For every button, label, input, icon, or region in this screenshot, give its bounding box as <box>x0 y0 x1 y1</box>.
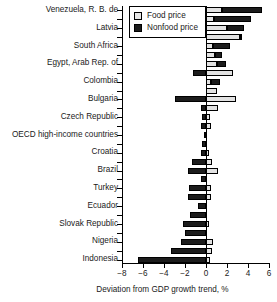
x-tick-label: 6 <box>259 269 277 278</box>
legend-swatch-food-icon <box>134 12 142 20</box>
bar-segment-food <box>206 52 215 58</box>
bar-segment-nonfood <box>175 96 207 102</box>
y-axis-label: Croatia <box>92 148 118 156</box>
legend-swatch-nonfood-icon <box>134 24 142 32</box>
y-tick <box>117 144 122 145</box>
bar-segment-food <box>206 239 213 245</box>
legend-entry-food: Food price <box>134 10 201 22</box>
bar-segment-food <box>206 248 212 254</box>
bar-segment-nonfood <box>214 16 251 22</box>
bar-segment-food <box>206 168 218 174</box>
y-tick <box>117 179 122 180</box>
y-axis-label: South Africa <box>74 42 118 50</box>
bar-row <box>122 255 269 264</box>
bar-segment-nonfood <box>213 43 230 49</box>
bar-segment-nonfood <box>189 185 206 191</box>
x-tick <box>164 264 165 268</box>
bar-row <box>122 95 269 104</box>
x-tick-label: 2 <box>217 269 237 278</box>
x-tick <box>185 264 186 268</box>
y-tick <box>117 55 122 56</box>
bar-segment-nonfood <box>192 159 206 165</box>
bar-segment-nonfood <box>211 79 219 85</box>
bar-row <box>122 131 269 140</box>
y-tick <box>117 108 122 109</box>
y-tick <box>117 126 122 127</box>
bar-segment-nonfood <box>201 176 206 182</box>
bar-segment-food <box>206 7 222 13</box>
bar-segment-food <box>206 34 240 40</box>
bar-row <box>122 220 269 229</box>
bar-segment-nonfood <box>222 7 262 13</box>
bar-segment-food <box>206 114 210 120</box>
bar-segment-nonfood <box>204 132 206 138</box>
bar-row <box>122 122 269 131</box>
x-tick <box>206 264 207 268</box>
y-axis-label: Brazil <box>98 166 118 174</box>
legend-label-nonfood: Nonfood price <box>147 24 198 32</box>
bar-segment-nonfood <box>202 114 206 120</box>
bar-segment-food <box>206 25 227 31</box>
bar-row <box>122 228 269 237</box>
bar-segment-food <box>206 257 210 263</box>
bar-row <box>122 237 269 246</box>
bar-segment-nonfood <box>215 52 221 58</box>
bar-row <box>122 86 269 95</box>
bar-segment-food <box>206 221 209 227</box>
bar-row <box>122 42 269 51</box>
bar-segment-nonfood <box>193 70 206 76</box>
bar-row <box>122 157 269 166</box>
y-axis-label: Ecuador <box>88 202 119 210</box>
bar-row <box>122 113 269 122</box>
bar-row <box>122 139 269 148</box>
bar-segment-nonfood <box>202 141 206 147</box>
y-axis-label: Colombia <box>83 77 118 85</box>
x-axis-title: Deviation from GDP growth trend, % <box>0 285 277 294</box>
x-tick-label: −2 <box>175 269 195 278</box>
legend-label-food: Food price <box>147 12 186 20</box>
bar-segment-nonfood <box>171 248 206 254</box>
x-tick <box>248 264 249 268</box>
y-tick <box>117 73 122 74</box>
x-tick-label: −6 <box>133 269 153 278</box>
y-tick <box>117 91 122 92</box>
x-tick <box>269 264 270 268</box>
bar-segment-food <box>206 150 209 156</box>
bar-segment-nonfood <box>183 221 206 227</box>
x-tick <box>143 264 144 268</box>
bar-segment-nonfood <box>227 25 244 31</box>
x-tick-label: −8 <box>112 269 132 278</box>
bar-row <box>122 148 269 157</box>
y-tick <box>117 37 122 38</box>
plot-area <box>122 6 269 264</box>
bar-row <box>122 246 269 255</box>
bar-row <box>122 202 269 211</box>
x-tick <box>122 264 123 268</box>
y-tick <box>117 162 122 163</box>
bar-segment-food <box>206 105 218 111</box>
bar-segment-food <box>206 16 214 22</box>
bar-row <box>122 77 269 86</box>
bar-segment-nonfood <box>188 194 206 200</box>
bar-row <box>122 104 269 113</box>
y-axis-label: Latvia <box>96 24 118 32</box>
bar-segment-food <box>206 96 236 102</box>
y-axis-label: Egypt, Arab Rep. of <box>47 59 118 67</box>
bar-segment-food <box>206 159 212 165</box>
chart-legend: Food price Nonfood price <box>129 6 206 38</box>
y-axis-label: Indonesia <box>82 255 118 263</box>
bar-row <box>122 68 269 77</box>
bar-segment-nonfood <box>198 203 206 209</box>
bar-row <box>122 50 269 59</box>
bar-segment-nonfood <box>190 212 206 218</box>
y-tick <box>117 215 122 216</box>
chart-container: Venezuela, R. B. deLatviaSouth AfricaEgy… <box>0 0 277 302</box>
bar-segment-nonfood <box>181 239 206 245</box>
x-tick <box>227 264 228 268</box>
y-axis-label: Slovak Republic <box>59 220 118 228</box>
bar-segment-nonfood <box>185 230 206 236</box>
bar-segment-food <box>206 70 233 76</box>
bar-segment-food <box>206 194 211 200</box>
y-tick <box>117 19 122 20</box>
bar-row <box>122 184 269 193</box>
